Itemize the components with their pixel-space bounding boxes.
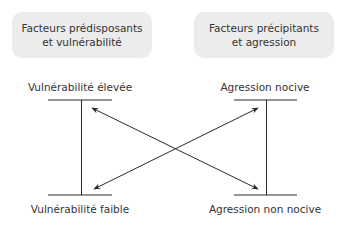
aggression-scale — [234, 100, 297, 195]
diagram-lines — [0, 0, 348, 229]
vulnerability-scale — [48, 100, 112, 195]
